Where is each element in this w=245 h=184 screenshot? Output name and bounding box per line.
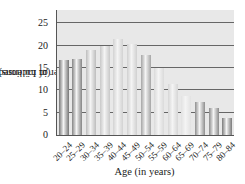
bar (59, 60, 69, 135)
bar (195, 102, 205, 135)
y-tick-label: 20 (28, 41, 48, 51)
plot-area (56, 10, 234, 136)
y-tick-label: 10 (28, 85, 48, 95)
gridline (57, 22, 234, 23)
y-tick-label: 15 (28, 63, 48, 73)
bar (127, 44, 137, 135)
bar (72, 59, 82, 135)
y-tick-label: 5 (28, 108, 48, 118)
bar (222, 118, 232, 135)
y-tick-label: 0 (28, 130, 48, 140)
bar (113, 39, 123, 135)
bar (209, 108, 219, 135)
bar (154, 68, 164, 135)
bar (141, 55, 151, 135)
bar (181, 96, 191, 135)
bar (86, 50, 96, 135)
y-tick-label: 25 (28, 18, 48, 28)
bar (168, 84, 178, 135)
gridline (57, 45, 234, 46)
x-axis-label: Age (in years) (56, 166, 233, 177)
bar (100, 46, 110, 135)
